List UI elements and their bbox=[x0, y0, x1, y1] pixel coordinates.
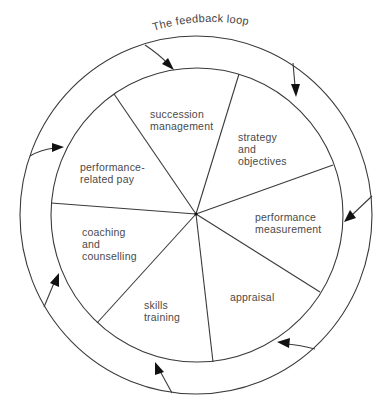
arrowhead-icon bbox=[277, 338, 290, 348]
spoke-strategy-measurement bbox=[196, 165, 333, 214]
feedback-arrow-bottom bbox=[160, 371, 172, 393]
segment-performance-measurement: performance measurement bbox=[255, 211, 321, 235]
spoke-appraisal-skills bbox=[196, 214, 213, 362]
wheel-center-dot bbox=[194, 212, 197, 215]
arrowhead-icon bbox=[50, 273, 59, 287]
segment-strategy-and-objectives: strategy and objectives bbox=[238, 131, 287, 167]
segment-coaching-and-counselling: coaching and counselling bbox=[82, 226, 137, 262]
segment-skills-training: skills training bbox=[144, 299, 180, 323]
feedback-loop-diagram: The feedback loop succession management … bbox=[0, 0, 392, 417]
feedback-arrow-left-lower bbox=[44, 283, 54, 307]
diagram-title: The feedback loop bbox=[151, 12, 250, 33]
segment-succession-management: succession management bbox=[150, 108, 213, 132]
feedback-arrow-right bbox=[352, 196, 372, 215]
feedback-arrow-top-left bbox=[145, 45, 168, 64]
arrowhead-icon bbox=[52, 143, 64, 152]
feedback-arrow-left-upper bbox=[30, 148, 54, 156]
segment-appraisal: appraisal bbox=[230, 291, 274, 303]
arrowhead-icon bbox=[344, 210, 356, 222]
arrowhead-icon bbox=[155, 362, 164, 375]
spoke-succession-strategy bbox=[196, 74, 239, 214]
segment-labels: succession management strategy and objec… bbox=[80, 108, 321, 323]
arrowhead-icon bbox=[291, 84, 300, 97]
segment-performance-related-pay: performance- related pay bbox=[80, 161, 148, 185]
feedback-arrow-bottom-right bbox=[287, 344, 315, 349]
spoke-coaching-perfpay bbox=[51, 203, 196, 214]
